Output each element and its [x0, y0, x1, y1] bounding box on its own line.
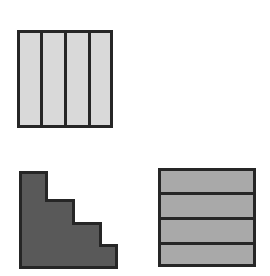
horizontal-band-square — [158, 168, 256, 267]
figure-canvas: Three gray geometric figures on a white … — [0, 0, 270, 276]
figure-svg — [0, 0, 270, 276]
vertical-strip-square — [17, 30, 113, 128]
